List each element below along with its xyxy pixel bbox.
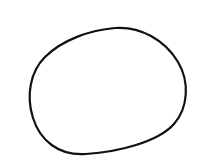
blob-drawing: [0, 0, 200, 160]
blob-outline: [30, 28, 186, 154]
drawing-canvas: [0, 0, 200, 160]
